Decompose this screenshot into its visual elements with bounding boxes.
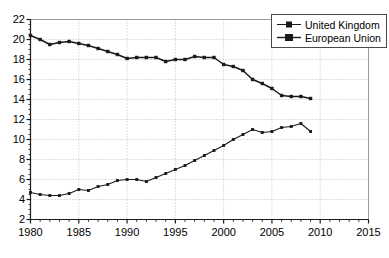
- x-axis-tick-label: 2015: [349, 226, 389, 238]
- legend-item-european-union: European Union: [276, 31, 381, 44]
- y-axis-tick-label: 12: [0, 113, 25, 125]
- y-axis-tick-label: 22: [0, 13, 25, 25]
- y-axis-tick-label: 18: [0, 53, 25, 65]
- y-axis-tick-label: 10: [0, 133, 25, 145]
- legend-marker-icon: [276, 32, 302, 43]
- x-axis-tick-label: 1980: [11, 226, 51, 238]
- legend-label-european-union: European Union: [302, 32, 381, 44]
- x-axis-tick-label: 2000: [204, 226, 244, 238]
- x-axis-tick-label: 2005: [252, 226, 292, 238]
- legend-item-united-kingdom: United Kingdom: [276, 18, 381, 31]
- y-axis-tick-label: 2: [0, 213, 25, 225]
- y-axis-tick-label: 16: [0, 73, 25, 85]
- legend-marker-icon: [276, 19, 302, 30]
- y-axis-tick-label: 4: [0, 193, 25, 205]
- x-axis-tick-label: 1990: [107, 226, 147, 238]
- x-axis-tick-label: 2010: [300, 226, 340, 238]
- x-axis-tick-label: 1985: [59, 226, 99, 238]
- y-axis-tick-label: 6: [0, 173, 25, 185]
- y-axis-tick-label: 20: [0, 33, 25, 45]
- legend-label-united-kingdom: United Kingdom: [302, 19, 380, 31]
- x-axis-tick-label: 1995: [155, 226, 195, 238]
- y-axis-tick-label: 8: [0, 153, 25, 165]
- chart-legend: United Kingdom European Union: [271, 14, 387, 48]
- y-axis-tick-label: 14: [0, 93, 25, 105]
